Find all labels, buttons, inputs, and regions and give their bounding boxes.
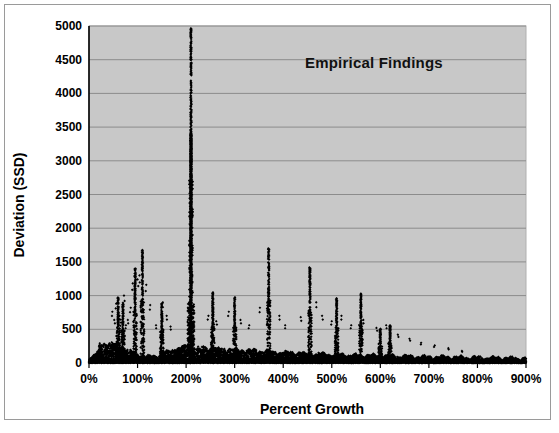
scatter-plot: 0%100%200%300%400%500%600%700%800%900% 0…: [5, 5, 550, 419]
y-axis-title: Deviation (SSD): [11, 105, 27, 305]
figure-container: 0%100%200%300%400%500%600%700%800%900% 0…: [0, 0, 559, 433]
x-tick-label: 300%: [219, 372, 250, 386]
y-tick-label: 0: [75, 356, 82, 370]
x-tick-label: 500%: [316, 372, 347, 386]
x-tick-label: 900%: [511, 372, 542, 386]
x-tick-label: 100%: [122, 372, 153, 386]
x-axis-title: Percent Growth: [93, 401, 531, 417]
chart-annotation-title: Empirical Findings: [305, 54, 443, 71]
y-tick-label: 4000: [55, 86, 82, 100]
y-tick-label: 500: [62, 322, 82, 336]
x-tick-label: 200%: [171, 372, 202, 386]
y-tick-label: 2500: [55, 188, 82, 202]
x-axis-tick-labels: 0%100%200%300%400%500%600%700%800%900%: [80, 372, 541, 386]
y-tick-label: 4500: [55, 53, 82, 67]
x-tick-label: 600%: [365, 372, 396, 386]
y-tick-label: 3000: [55, 154, 82, 168]
chart-frame: 0%100%200%300%400%500%600%700%800%900% 0…: [4, 4, 551, 420]
page-caption-cutoff: [0, 424, 559, 433]
y-axis-tick-labels: 0500100015002000250030003500400045005000: [55, 19, 82, 370]
x-tick-label: 400%: [268, 372, 299, 386]
x-tick-label: 700%: [414, 372, 445, 386]
y-tick-label: 1000: [55, 289, 82, 303]
x-tick-label: 800%: [462, 372, 493, 386]
y-tick-label: 1500: [55, 255, 82, 269]
y-tick-label: 5000: [55, 19, 82, 33]
y-tick-label: 3500: [55, 120, 82, 134]
x-tick-label: 0%: [80, 372, 98, 386]
y-tick-label: 2000: [55, 221, 82, 235]
